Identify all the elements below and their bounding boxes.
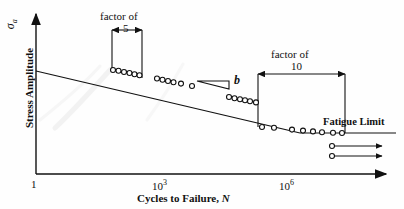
x-tick-1: 1 [31, 178, 37, 190]
x-tick-10e3-base: 10 [152, 180, 163, 192]
s-n-curve-plot [0, 0, 404, 209]
x-tick-10e3: 103 [152, 178, 167, 192]
x-axis-label-symbol: N [222, 192, 230, 204]
slope-label-b: b [234, 73, 240, 88]
sigma-glyph: σ [3, 23, 17, 29]
sigma-subscript: a [10, 19, 19, 23]
x-tick-10e6-base: 10 [279, 180, 290, 192]
x-tick-10e6: 106 [279, 178, 294, 192]
x-axis-label: Cycles to Failure, N [137, 192, 230, 204]
x-axis-label-text: Cycles to Failure, [137, 192, 219, 204]
factor-of-5-value: 5 [123, 22, 129, 34]
runout-markers [330, 144, 383, 159]
factor-of-5-title: factor of [100, 10, 138, 22]
y-axis-label: Stress Amplitude [23, 13, 35, 163]
factor-of-10-title: factor of [271, 48, 309, 60]
scan-artifact [40, 64, 183, 128]
x-tick-10e6-exponent: 6 [290, 178, 294, 187]
slope-triangle [197, 81, 229, 89]
x-tick-1-base: 1 [31, 178, 37, 190]
scatter-group-lower [227, 95, 259, 105]
x-tick-10e3-exponent: 3 [163, 178, 167, 187]
y-axis-symbol: σa [3, 19, 19, 29]
figure-canvas: Stress Amplitude σa factor of 5 factor o… [0, 0, 404, 209]
scatter-group-upper [111, 68, 143, 78]
factor-of-10-value: 10 [291, 60, 302, 72]
fatigue-limit-label: Fatigue Limit [323, 116, 385, 127]
